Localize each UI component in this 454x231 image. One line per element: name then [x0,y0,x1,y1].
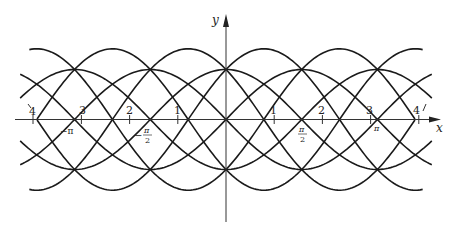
label-pi: π [373,124,380,133]
leader-mark-right [423,104,426,111]
label-half-pi-den: 2 [300,135,305,144]
tick-label-neg4: 4 [29,105,36,118]
tick-label-neg1: 1 [174,104,181,117]
tick-label-pos3: 3 [366,104,373,117]
tick-label-pos1: 1 [270,104,277,117]
tick-label-neg3: 3 [79,104,86,117]
label-neg-half-pi-num: π [143,126,150,135]
label-half-pi-num: π [298,125,305,134]
x-axis-label: x [436,121,443,135]
plot-area: x y 4 3 2 1 1 2 3 4 −π − π 2 π 2 π [0,0,454,231]
tick-label-neg2: 2 [126,104,133,117]
y-axis-label: y [211,13,219,27]
label-neg-half-pi-sign: − [134,130,142,141]
tick-label-pos2: 2 [318,104,325,117]
tick-label-pos4: 4 [413,104,420,117]
y-axis-arrow-icon [223,14,229,27]
label-neg-half-pi-den: 2 [145,136,150,145]
label-neg-pi: −π [60,126,74,136]
